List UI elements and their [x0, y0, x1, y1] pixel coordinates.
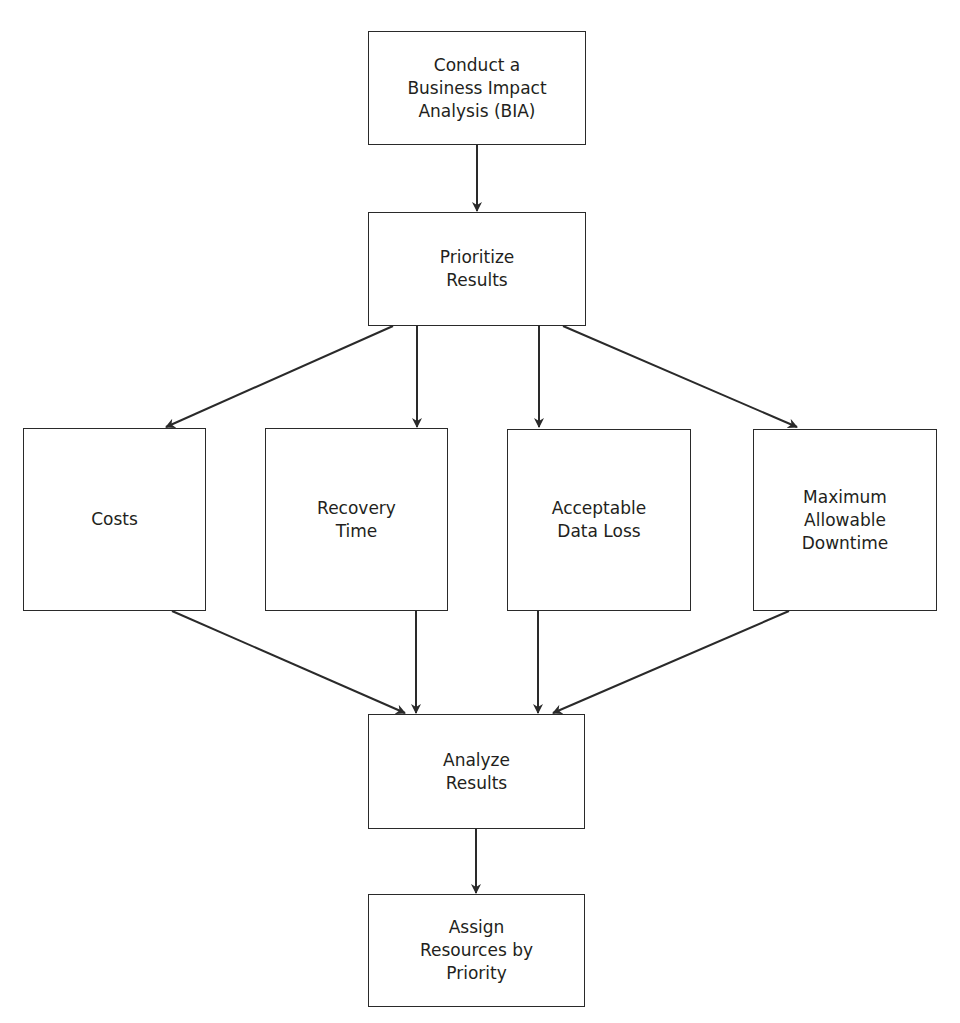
arrow-prioritize-to-costs: [166, 326, 393, 427]
arrow-prioritize-to-downtime: [563, 326, 797, 427]
node-label: Acceptable Data Loss: [552, 497, 646, 543]
node-label: Costs: [91, 508, 138, 531]
node-label: Maximum Allowable Downtime: [802, 486, 889, 555]
node-assign-resources: Assign Resources by Priority: [368, 894, 585, 1007]
node-label: Assign Resources by Priority: [420, 916, 533, 985]
node-conduct-bia: Conduct a Business Impact Analysis (BIA): [368, 31, 586, 145]
node-recovery-time: Recovery Time: [265, 428, 448, 611]
node-label: Analyze Results: [443, 749, 510, 795]
node-label: Recovery Time: [317, 497, 396, 543]
node-label: Prioritize Results: [440, 246, 515, 292]
arrow-costs-to-analyze: [172, 611, 405, 713]
node-acceptable-data-loss: Acceptable Data Loss: [507, 429, 691, 611]
node-costs: Costs: [23, 428, 206, 611]
node-label: Conduct a Business Impact Analysis (BIA): [407, 54, 546, 123]
arrow-downtime-to-analyze: [553, 611, 789, 713]
node-prioritize-results: Prioritize Results: [368, 212, 586, 326]
node-maximum-allowable-downtime: Maximum Allowable Downtime: [753, 429, 937, 611]
node-analyze-results: Analyze Results: [368, 714, 585, 829]
